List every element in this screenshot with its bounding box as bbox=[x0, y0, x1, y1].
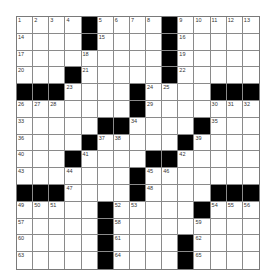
grid-cell[interactable] bbox=[243, 219, 259, 236]
grid-cell[interactable] bbox=[162, 235, 178, 252]
grid-cell[interactable] bbox=[65, 202, 81, 219]
grid-cell[interactable] bbox=[130, 67, 146, 84]
grid-cell[interactable] bbox=[243, 151, 259, 168]
grid-cell[interactable] bbox=[211, 168, 227, 185]
grid-cell[interactable] bbox=[211, 67, 227, 84]
grid-cell[interactable]: 53 bbox=[130, 202, 146, 219]
grid-cell[interactable]: 58 bbox=[114, 219, 130, 236]
grid-cell[interactable] bbox=[114, 67, 130, 84]
grid-cell[interactable] bbox=[211, 34, 227, 51]
grid-cell[interactable] bbox=[65, 135, 81, 152]
grid-cell[interactable] bbox=[227, 252, 243, 269]
grid-cell[interactable] bbox=[194, 67, 210, 84]
grid-cell[interactable] bbox=[162, 185, 178, 202]
grid-cell[interactable]: 60 bbox=[17, 235, 33, 252]
grid-cell[interactable] bbox=[33, 252, 49, 269]
grid-cell[interactable]: 62 bbox=[194, 235, 210, 252]
grid-cell[interactable] bbox=[82, 118, 98, 135]
grid-cell[interactable]: 22 bbox=[178, 67, 194, 84]
grid-cell[interactable] bbox=[33, 34, 49, 51]
grid-cell[interactable]: 9 bbox=[178, 17, 194, 34]
grid-cell[interactable] bbox=[49, 252, 65, 269]
grid-cell[interactable] bbox=[194, 168, 210, 185]
grid-cell[interactable] bbox=[243, 34, 259, 51]
grid-cell[interactable] bbox=[33, 135, 49, 152]
grid-cell[interactable] bbox=[114, 151, 130, 168]
grid-cell[interactable]: 15 bbox=[98, 34, 114, 51]
grid-cell[interactable] bbox=[211, 235, 227, 252]
grid-cell[interactable] bbox=[114, 185, 130, 202]
grid-cell[interactable] bbox=[162, 202, 178, 219]
grid-cell[interactable] bbox=[243, 67, 259, 84]
grid-cell[interactable] bbox=[49, 235, 65, 252]
grid-cell[interactable]: 17 bbox=[17, 51, 33, 68]
grid-cell[interactable] bbox=[33, 51, 49, 68]
grid-cell[interactable] bbox=[146, 252, 162, 269]
grid-cell[interactable] bbox=[82, 202, 98, 219]
grid-cell[interactable]: 3 bbox=[49, 17, 65, 34]
grid-cell[interactable] bbox=[227, 67, 243, 84]
grid-cell[interactable] bbox=[82, 168, 98, 185]
grid-cell[interactable]: 37 bbox=[98, 135, 114, 152]
grid-cell[interactable] bbox=[98, 185, 114, 202]
grid-cell[interactable] bbox=[49, 151, 65, 168]
grid-cell[interactable] bbox=[194, 101, 210, 118]
grid-cell[interactable] bbox=[243, 235, 259, 252]
grid-cell[interactable] bbox=[227, 168, 243, 185]
grid-cell[interactable]: 54 bbox=[211, 202, 227, 219]
grid-cell[interactable] bbox=[130, 252, 146, 269]
grid-cell[interactable] bbox=[211, 151, 227, 168]
grid-cell[interactable] bbox=[211, 135, 227, 152]
grid-cell[interactable] bbox=[178, 168, 194, 185]
grid-cell[interactable] bbox=[82, 219, 98, 236]
grid-cell[interactable]: 6 bbox=[114, 17, 130, 34]
grid-cell[interactable]: 63 bbox=[17, 252, 33, 269]
grid-cell[interactable]: 4 bbox=[65, 17, 81, 34]
grid-cell[interactable]: 20 bbox=[17, 67, 33, 84]
grid-cell[interactable] bbox=[162, 219, 178, 236]
grid-cell[interactable] bbox=[146, 51, 162, 68]
grid-cell[interactable]: 39 bbox=[194, 135, 210, 152]
grid-cell[interactable] bbox=[65, 101, 81, 118]
grid-cell[interactable]: 1 bbox=[17, 17, 33, 34]
grid-cell[interactable]: 47 bbox=[65, 185, 81, 202]
grid-cell[interactable] bbox=[146, 118, 162, 135]
grid-cell[interactable] bbox=[65, 219, 81, 236]
grid-cell[interactable]: 51 bbox=[49, 202, 65, 219]
grid-cell[interactable] bbox=[33, 67, 49, 84]
grid-cell[interactable] bbox=[227, 34, 243, 51]
grid-cell[interactable]: 21 bbox=[82, 67, 98, 84]
grid-cell[interactable] bbox=[114, 34, 130, 51]
grid-cell[interactable]: 49 bbox=[17, 202, 33, 219]
grid-cell[interactable] bbox=[65, 34, 81, 51]
grid-cell[interactable] bbox=[146, 135, 162, 152]
grid-cell[interactable] bbox=[146, 235, 162, 252]
grid-cell[interactable] bbox=[33, 219, 49, 236]
grid-cell[interactable] bbox=[146, 202, 162, 219]
grid-cell[interactable] bbox=[65, 118, 81, 135]
grid-cell[interactable]: 52 bbox=[114, 202, 130, 219]
grid-cell[interactable]: 45 bbox=[146, 168, 162, 185]
grid-cell[interactable] bbox=[49, 67, 65, 84]
grid-cell[interactable] bbox=[194, 51, 210, 68]
grid-cell[interactable] bbox=[33, 151, 49, 168]
grid-cell[interactable] bbox=[82, 101, 98, 118]
grid-cell[interactable]: 16 bbox=[178, 34, 194, 51]
grid-cell[interactable] bbox=[146, 67, 162, 84]
grid-cell[interactable] bbox=[98, 101, 114, 118]
grid-cell[interactable] bbox=[146, 219, 162, 236]
grid-cell[interactable] bbox=[162, 101, 178, 118]
grid-cell[interactable]: 46 bbox=[162, 168, 178, 185]
grid-cell[interactable]: 56 bbox=[243, 202, 259, 219]
grid-cell[interactable]: 5 bbox=[98, 17, 114, 34]
grid-cell[interactable]: 40 bbox=[17, 151, 33, 168]
grid-cell[interactable] bbox=[49, 168, 65, 185]
grid-cell[interactable] bbox=[194, 151, 210, 168]
grid-cell[interactable] bbox=[227, 118, 243, 135]
grid-cell[interactable] bbox=[98, 84, 114, 101]
grid-cell[interactable]: 29 bbox=[146, 101, 162, 118]
grid-cell[interactable] bbox=[49, 51, 65, 68]
grid-cell[interactable] bbox=[194, 34, 210, 51]
grid-cell[interactable] bbox=[82, 84, 98, 101]
grid-cell[interactable]: 55 bbox=[227, 202, 243, 219]
